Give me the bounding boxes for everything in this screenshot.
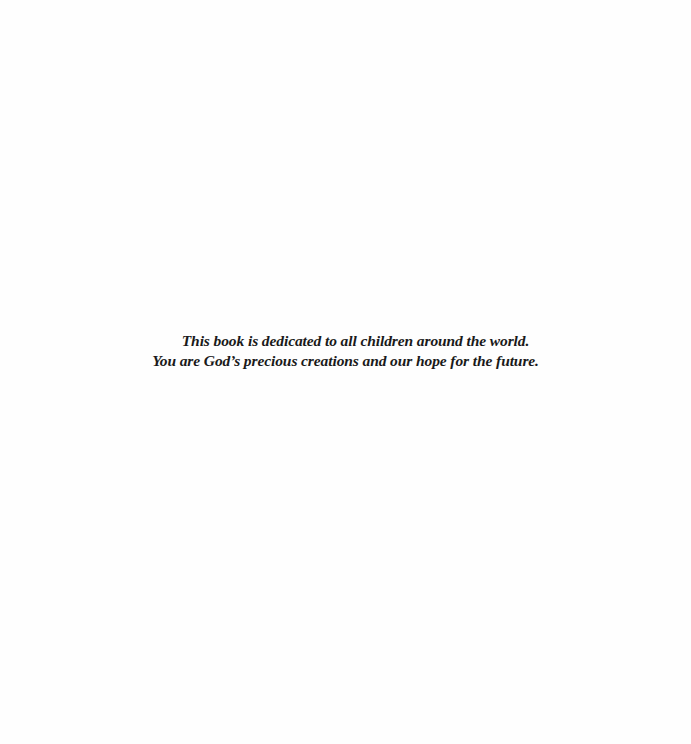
book-page: This book is dedicated to all children a…: [0, 0, 691, 744]
dedication-line-2: You are God’s precious creations and our…: [0, 351, 691, 371]
dedication-text: This book is dedicated to all children a…: [0, 331, 691, 371]
dedication-line-1: This book is dedicated to all children a…: [0, 331, 691, 351]
